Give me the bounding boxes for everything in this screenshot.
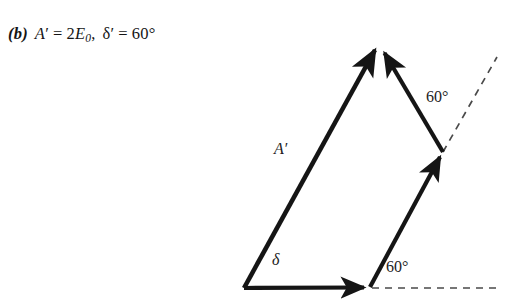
phasor2-extension-dashed: [443, 57, 497, 152]
angle-label-bottom: 60°: [386, 258, 408, 276]
resultant-label: A′: [274, 140, 287, 158]
phase-angle-label: δ: [272, 251, 279, 269]
phasor-diagram: [0, 0, 531, 301]
figure-page: (b)A′=2E0,δ′=60° A′ δ 60° 60°: [0, 0, 531, 301]
phasor-1-vector: [244, 288, 364, 289]
resultant-vector: [244, 50, 375, 288]
angle-label-top: 60°: [426, 88, 448, 106]
